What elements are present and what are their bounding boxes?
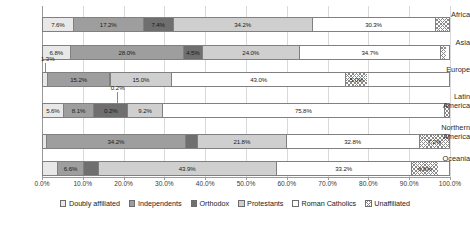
category-label: Oceania [430, 155, 470, 164]
x-axis-tick-label: 0.0% [22, 180, 62, 187]
legend-item-doubly-affiliated[interactable]: Doubly affiliated [60, 199, 120, 208]
x-axis-tick-label: 30.0% [144, 180, 184, 187]
legend-item-orthodox[interactable]: Orthodox [191, 199, 230, 208]
legend-swatch-icon [60, 200, 67, 207]
stacked-bar: 6.6%43.9%33.2%6.6% [42, 161, 450, 176]
segment-value-label: 6.6% [418, 165, 432, 172]
category-label: Europe [430, 66, 470, 75]
stacked-bar: 6.8%28.0%4.5%24.0%34.7% [42, 45, 450, 60]
segment-value-label: 43.9% [179, 165, 196, 172]
segment-value-label: 43.0% [250, 76, 267, 83]
category-label: Asia [430, 39, 470, 48]
legend-item-roman-catholics[interactable]: Roman Catholics [292, 199, 356, 208]
x-axis-tick-label: 50.0% [226, 180, 266, 187]
bar-segment: 28.0% [71, 46, 185, 59]
bar-segment: 32.8% [287, 135, 420, 148]
segment-value-label: 30.3% [365, 21, 382, 28]
legend-item-unaffiliated[interactable]: Unaffiliated [365, 199, 410, 208]
x-axis-tick [450, 177, 451, 180]
stacked-bar-chart: 7.6%17.2%7.4%34.2%30.3%6.8%28.0%4.5%24.0… [0, 0, 470, 225]
bar-segment: 5.6% [43, 104, 64, 117]
stacked-bar: 5.6%8.1%0.2%9.2%75.8% [42, 103, 450, 118]
legend-label: Unaffiliated [374, 199, 410, 208]
x-axis-tick [83, 177, 84, 180]
x-axis-tick-label: 80.0% [348, 180, 388, 187]
x-axis-tick-label: 20.0% [104, 180, 144, 187]
x-axis-tick-label: 100.0% [430, 180, 470, 187]
x-axis-tick [246, 177, 247, 180]
x-axis-tick [409, 177, 410, 180]
segment-value-label: 32.8% [344, 138, 361, 145]
bar-row: 7.6%17.2%7.4%34.2%30.3% [42, 17, 450, 32]
bar-segment [186, 135, 198, 148]
x-axis-tick [328, 177, 329, 180]
bar-segment: 0.2% [94, 104, 128, 117]
bar-segment: 5.0% [346, 73, 366, 86]
bar-segment: 6.6% [412, 162, 439, 175]
callout-leader-line [117, 92, 118, 103]
segment-value-label: 34.2% [234, 21, 251, 28]
legend-item-protestants[interactable]: Protestants [238, 199, 283, 208]
x-axis-tick [205, 177, 206, 180]
x-axis-tick-label: 90.0% [389, 180, 429, 187]
x-axis-tick-label: 70.0% [308, 180, 348, 187]
x-axis-tick-label: 40.0% [185, 180, 225, 187]
bar-segment: 30.3% [313, 18, 436, 31]
x-axis-tick-label: 60.0% [267, 180, 307, 187]
bar-segment: 7.4% [144, 18, 174, 31]
segment-value-label: 15.0% [133, 76, 150, 83]
legend-label: Roman Catholics [301, 199, 356, 208]
bar-row: 6.8%28.0%4.5%24.0%34.7% [42, 45, 450, 60]
segment-value-label: 17.2% [100, 21, 117, 28]
segment-value-label: 9.2% [138, 107, 152, 114]
bar-segment: 75.8% [163, 104, 445, 117]
x-axis-tick [164, 177, 165, 180]
bar-segment: 4.5% [184, 46, 202, 59]
segment-value-label: 4.5% [186, 49, 200, 56]
bar-segment: 33.2% [277, 162, 412, 175]
x-axis-tick [368, 177, 369, 180]
category-label: LatinAmerica [430, 93, 470, 110]
stacked-bar: 7.6%17.2%7.4%34.2%30.3% [42, 17, 450, 32]
bar-segment: 8.1% [64, 104, 94, 117]
bar-segment: 43.0% [172, 73, 347, 86]
stacked-bar: 15.2%15.0%43.0%5.0% [42, 72, 450, 87]
segment-value-label: 75.8% [295, 107, 312, 114]
segment-value-label: 8.1% [72, 107, 86, 114]
segment-value-label: 7.6% [51, 21, 65, 28]
bar-segment [436, 18, 449, 31]
category-label: NorthernAmerica [430, 124, 470, 141]
x-axis-tick [287, 177, 288, 180]
legend-swatch-icon [129, 200, 136, 207]
x-axis-tick [124, 177, 125, 180]
segment-value-label: 21.8% [233, 138, 250, 145]
bar-segment: 34.2% [174, 18, 313, 31]
callout-value-label: 0.2% [111, 84, 125, 91]
bar-segment [43, 162, 58, 175]
bar-row: 15.2%15.0%43.0%5.0% [42, 72, 450, 87]
segment-value-label: 5.6% [46, 107, 60, 114]
segment-value-label: 15.2% [70, 76, 87, 83]
bar-segment: 6.6% [58, 162, 85, 175]
legend-label: Orthodox [200, 199, 230, 208]
bar-segment: 9.2% [128, 104, 162, 117]
bar-segment [441, 46, 446, 59]
segment-value-label: 7.4% [151, 21, 165, 28]
bar-segment: 17.2% [74, 18, 144, 31]
bar-segment: 21.8% [198, 135, 287, 148]
callout-leader-line [45, 63, 46, 72]
segment-value-label: 6.6% [64, 165, 78, 172]
legend-item-independents[interactable]: Independents [129, 199, 182, 208]
gridline [450, 6, 451, 177]
x-axis-tick-label: 10.0% [63, 180, 103, 187]
legend-swatch-icon [238, 200, 245, 207]
plot-area: 7.6%17.2%7.4%34.2%30.3%6.8%28.0%4.5%24.0… [42, 6, 450, 177]
segment-value-label: 33.2% [335, 165, 352, 172]
legend-label: Doubly affiliated [69, 199, 120, 208]
bar-segment: 34.7% [300, 46, 441, 59]
bar-segment: 7.6% [43, 18, 74, 31]
x-axis-tick [42, 177, 43, 180]
segment-value-label: 34.2% [108, 138, 125, 145]
segment-value-label: 5.0% [350, 76, 364, 83]
segment-value-label: 34.7% [362, 49, 379, 56]
